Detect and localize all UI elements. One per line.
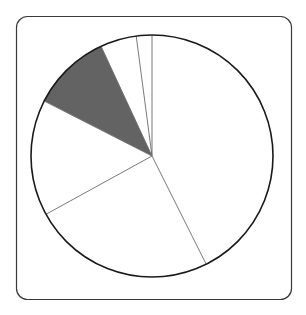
figure-root bbox=[0, 0, 306, 315]
pie-chart-svg bbox=[0, 0, 306, 315]
